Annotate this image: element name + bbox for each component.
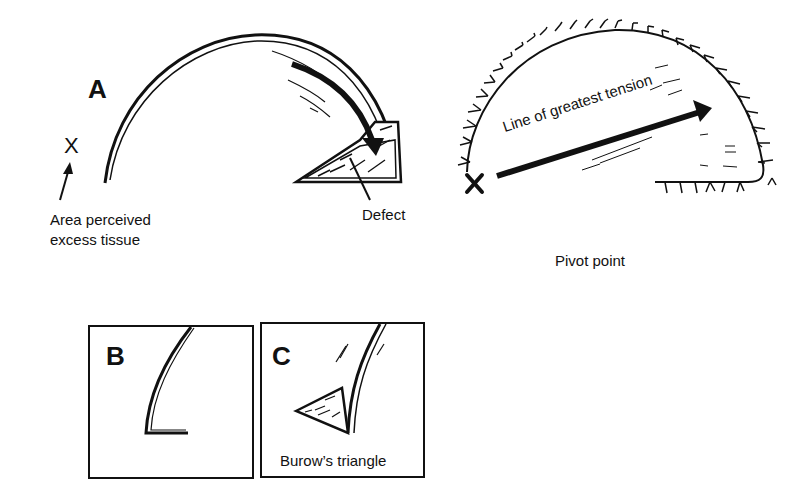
excess-tissue-label-line2: excess tissue: [50, 231, 140, 249]
panel-a-letter: A: [88, 76, 107, 102]
panel-c-letter: C: [272, 343, 291, 369]
rotation-arrow: [292, 64, 384, 156]
burows-triangle-caption: Burow’s triangle: [280, 452, 386, 470]
panel-b-letter: B: [106, 343, 125, 369]
excess-tissue-marker: X: [64, 135, 79, 157]
pivot-point-marker: [467, 175, 482, 192]
excess-tissue-label-line1: Area perceived: [50, 211, 151, 229]
tension-hatch-marks: [582, 65, 737, 170]
suture-marks: [458, 19, 776, 193]
pivot-point-label: Pivot point: [555, 252, 625, 270]
defect-triangle: [296, 122, 401, 182]
defect-label: Defect: [362, 206, 405, 224]
excess-tissue-arrow: [60, 162, 73, 200]
